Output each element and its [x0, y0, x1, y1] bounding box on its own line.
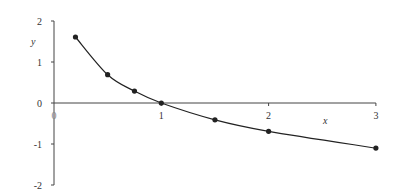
x-tick-label: 1 [159, 110, 164, 121]
data-series [73, 34, 379, 150]
x-tick-label: 3 [373, 110, 378, 121]
y-axis: 210-1-2 [34, 16, 54, 191]
y-tick-label: 0 [37, 98, 42, 109]
data-point-marker [212, 117, 217, 122]
data-point-marker [132, 89, 137, 94]
x-tick-label: 0 [52, 110, 57, 121]
chart: 210-1-2 0123 x y [0, 0, 396, 195]
data-point-marker [373, 146, 378, 151]
y-tick-label: 2 [37, 16, 42, 27]
series-line [75, 37, 375, 148]
data-point-marker [73, 34, 78, 39]
y-tick-label: 1 [37, 57, 42, 68]
x-tick-label: 2 [266, 110, 271, 121]
y-axis-title: y [30, 36, 36, 47]
x-axis-title: x [322, 115, 328, 126]
data-point-marker [159, 100, 164, 105]
y-tick-label: -2 [34, 180, 42, 191]
y-tick-label: -1 [34, 139, 42, 150]
data-point-marker [266, 129, 271, 134]
data-point-marker [105, 72, 110, 77]
